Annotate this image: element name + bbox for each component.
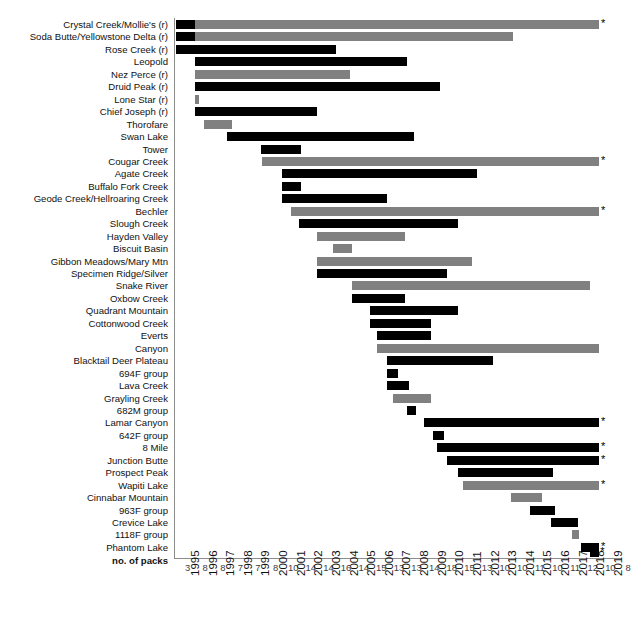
pack-label: Cougar Creek — [0, 156, 168, 167]
pack-label: Biscuit Basin — [0, 243, 168, 254]
pack-label: Canyon — [0, 343, 168, 354]
pack-label: Crystal Creek/Mollie's (r) — [0, 19, 168, 30]
pack-label: 963F group — [0, 505, 168, 516]
year-tick-label: 2019 — [612, 530, 624, 576]
timeline-bar — [262, 157, 599, 166]
timeline-bar — [261, 145, 302, 154]
pack-label: Bechler — [0, 206, 168, 217]
timeline-bar — [317, 257, 472, 266]
pack-label: Chief Joseph (r) — [0, 106, 168, 117]
pack-label: Lava Creek — [0, 380, 168, 391]
active-pack-asterisk: * — [601, 156, 605, 165]
pack-label: Lamar Canyon — [0, 417, 168, 428]
pack-label: 1118F group — [0, 529, 168, 540]
pack-label: Thorofare — [0, 119, 168, 130]
pack-label: Slough Creek — [0, 218, 168, 229]
timeline-bar — [227, 132, 414, 141]
year-tick-label: 2010 — [453, 530, 465, 576]
timeline-bar — [333, 244, 352, 253]
active-pack-asterisk: * — [601, 442, 605, 451]
year-tick-label: 2016 — [559, 530, 571, 576]
pack-label: 682M group — [0, 405, 168, 416]
pack-label: Nez Perce (r) — [0, 69, 168, 80]
pack-label: Gibbon Meadows/Mary Mtn — [0, 256, 168, 267]
pack-label: Soda Butte/Yellowstone Delta (r) — [0, 31, 168, 42]
year-tick-label: 1997 — [224, 530, 236, 576]
year-tick-label: 2014 — [524, 530, 536, 576]
year-tick-label: 2005 — [365, 530, 377, 576]
pack-label: Quadrant Mountain — [0, 305, 168, 316]
pack-label: Rose Creek (r) — [0, 44, 168, 55]
timeline-bar — [387, 356, 493, 365]
active-pack-asterisk: * — [601, 417, 605, 426]
pack-label: Leopold — [0, 56, 168, 67]
timeline-bar — [370, 319, 432, 328]
timeline-bar — [352, 281, 590, 290]
timeline-bar — [352, 294, 405, 303]
timeline-bar — [424, 418, 598, 427]
year-tick-label: 1996 — [207, 530, 219, 576]
year-tick-label: 2007 — [400, 530, 412, 576]
year-tick-label: 1998 — [242, 530, 254, 576]
year-tick-label: 2006 — [383, 530, 395, 576]
timeline-bar — [195, 20, 598, 29]
legend-square-icon — [590, 548, 599, 557]
pack-label: Cottonwood Creek — [0, 318, 168, 329]
timeline-bar — [176, 20, 195, 29]
pack-label: 8 Mile — [0, 442, 168, 453]
no-of-packs-label: no. of packs — [0, 555, 168, 566]
pack-label: Lone Star (r) — [0, 94, 168, 105]
pack-label: Everts — [0, 330, 168, 341]
wolf-pack-timeline-figure: Crystal Creek/Mollie's (r)Soda Butte/Yel… — [0, 0, 633, 628]
pack-label: Swan Lake — [0, 131, 168, 142]
pack-label: Snake River — [0, 280, 168, 291]
legend-asterisk: * — [600, 547, 604, 556]
pack-label: Hayden Valley — [0, 231, 168, 242]
timeline-bar — [291, 207, 599, 216]
pack-label: Junction Butte — [0, 455, 168, 466]
pack-label: Tower — [0, 144, 168, 155]
timeline-bar — [282, 182, 301, 191]
year-tick-label: 2013 — [506, 530, 518, 576]
pack-label: Buffalo Fork Creek — [0, 181, 168, 192]
timeline-bar — [387, 381, 408, 390]
timeline-bar — [370, 306, 458, 315]
timeline-bar — [195, 32, 512, 41]
timeline-bar — [463, 481, 599, 490]
timeline-bar — [317, 269, 447, 278]
timeline-bar — [572, 530, 579, 539]
pack-name-label-column: Crystal Creek/Mollie's (r)Soda Butte/Yel… — [0, 0, 172, 560]
year-tick-label: 1999 — [259, 530, 271, 576]
pack-label: 694F group — [0, 368, 168, 379]
timeline-bar — [377, 331, 432, 340]
timeline-bar — [530, 506, 555, 515]
timeline-bar — [299, 219, 458, 228]
year-tick-label: 2015 — [541, 530, 553, 576]
year-tick-label: 2008 — [418, 530, 430, 576]
pack-label: Cinnabar Mountain — [0, 492, 168, 503]
timeline-bar — [282, 169, 478, 178]
pack-label: Specimen Ridge/Silver — [0, 268, 168, 279]
timeline-bar — [195, 95, 199, 104]
timeline-bar — [447, 456, 599, 465]
timeline-bar — [195, 107, 317, 116]
pack-label: Crevice Lake — [0, 517, 168, 528]
year-tick-label: 2000 — [277, 530, 289, 576]
year-tick-label: 2009 — [436, 530, 448, 576]
year-tick-label: 2002 — [312, 530, 324, 576]
year-tick-label: 1995 — [189, 530, 201, 576]
active-pack-asterisk: * — [601, 455, 605, 464]
timeline-bar — [387, 369, 398, 378]
timeline-bar — [176, 45, 336, 54]
timeline-bar — [195, 70, 350, 79]
timeline-bar — [282, 194, 388, 203]
timeline-bar — [458, 468, 553, 477]
year-tick-label: 2012 — [489, 530, 501, 576]
pack-label: Oxbow Creek — [0, 293, 168, 304]
timeline-bar — [433, 431, 444, 440]
timeline-bar — [204, 120, 232, 129]
pack-label: Druid Peak (r) — [0, 81, 168, 92]
pack-label: Blacktail Deer Plateau — [0, 355, 168, 366]
timeline-bar — [176, 32, 195, 41]
pack-label: Phantom Lake — [0, 542, 168, 553]
